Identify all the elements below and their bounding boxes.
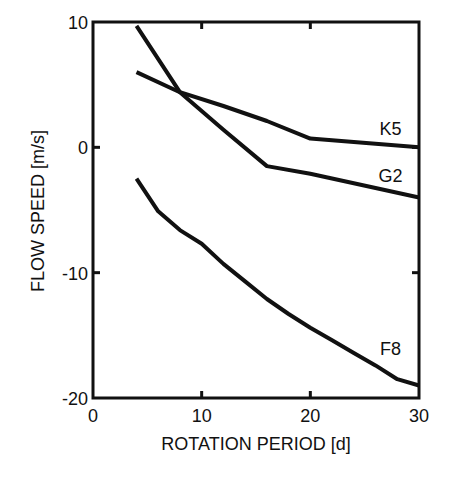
x-axis-label: ROTATION PERIOD [d] bbox=[161, 434, 350, 454]
series-label-k5: K5 bbox=[380, 119, 402, 139]
x-tick-label: 0 bbox=[88, 406, 98, 426]
y-tick-label: -20 bbox=[62, 389, 88, 409]
line-chart: 0102030-20-10010 K5G2F8 ROTATION PERIOD … bbox=[0, 0, 459, 481]
y-tick-label: 0 bbox=[78, 138, 88, 158]
x-tick-label: 30 bbox=[409, 406, 429, 426]
series-line-g2 bbox=[137, 26, 420, 198]
y-tick-label: -10 bbox=[62, 264, 88, 284]
series-line-k5 bbox=[137, 72, 420, 147]
plot-frame bbox=[93, 22, 419, 398]
series-line-f8 bbox=[137, 179, 420, 386]
x-tick-label: 20 bbox=[300, 406, 320, 426]
series-layer bbox=[137, 26, 420, 386]
tick-layer bbox=[93, 22, 419, 398]
series-label-f8: F8 bbox=[380, 339, 401, 359]
y-axis-label: FLOW SPEED [m/s] bbox=[28, 130, 48, 292]
series-label-layer: K5G2F8 bbox=[379, 119, 403, 360]
y-tick-label: 10 bbox=[68, 13, 88, 33]
x-tick-label: 10 bbox=[192, 406, 212, 426]
series-label-g2: G2 bbox=[379, 166, 403, 186]
